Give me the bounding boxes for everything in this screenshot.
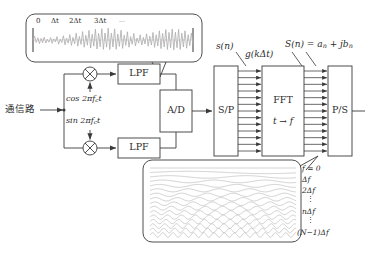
freq-label-2: 2Δf bbox=[302, 187, 315, 195]
signal-gkdt-label: g(kΔt) bbox=[245, 50, 273, 59]
cos-oscillator-label: cos 2πfct bbox=[66, 95, 102, 104]
ps-label: P/S bbox=[324, 105, 356, 115]
time-tick-0: 0 bbox=[36, 18, 40, 25]
time-tick-2: 2Δt bbox=[69, 18, 81, 25]
freq-label-4: nΔf bbox=[302, 208, 315, 216]
sin-oscillator-label: sin 2πfct bbox=[66, 117, 100, 126]
mixer-top-shape bbox=[83, 67, 97, 81]
freq-label-1: Δf bbox=[302, 176, 310, 184]
lpf-bottom-label: LPF bbox=[118, 142, 160, 152]
freq-label-0: f = 0 bbox=[302, 165, 321, 173]
freq-label-3: ⋮ bbox=[307, 196, 314, 203]
time-tick-1: Δt bbox=[51, 18, 59, 25]
time-tick-3: 3Δt bbox=[94, 18, 106, 25]
signal-sn-label: s(n) bbox=[216, 42, 233, 51]
lpf-top-label: LPF bbox=[118, 68, 160, 78]
time-waveform bbox=[33, 28, 193, 50]
diagram-canvas: 0 Δt 2Δt 3Δt ⋯ 通信路 cos 2πfct sin 2πfct L… bbox=[0, 0, 365, 256]
mixer-bottom-shape bbox=[83, 141, 97, 155]
fft-domain-label: t → f bbox=[262, 117, 304, 126]
freq-label-5: ⋮ bbox=[307, 217, 314, 224]
freq-label-6: (N−1)Δf bbox=[297, 229, 329, 237]
fft-label: FFT bbox=[262, 95, 304, 105]
channel-input-label: 通信路 bbox=[5, 104, 35, 114]
sp-label: S/P bbox=[210, 105, 242, 115]
ad-label: A/D bbox=[160, 105, 192, 115]
fft-box bbox=[262, 66, 304, 156]
signal-Sn-label: S(n) = an + jbn bbox=[285, 40, 353, 50]
time-tick-4: ⋯ bbox=[119, 18, 125, 24]
